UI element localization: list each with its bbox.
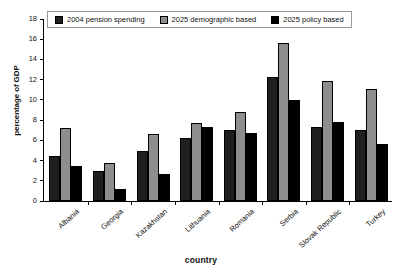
- bar: [202, 127, 213, 201]
- x-axis-label-text: Turkey: [364, 207, 387, 229]
- bar-group: [219, 20, 263, 201]
- bar: [180, 138, 191, 201]
- bar-group: [131, 20, 175, 201]
- y-tick-label: 4: [33, 156, 37, 165]
- bar: [267, 77, 278, 201]
- x-axis-label-text: Kazakhstan: [134, 207, 169, 240]
- x-tick-mark: [131, 201, 132, 205]
- bar: [71, 166, 82, 201]
- y-tick-label: 18: [29, 14, 37, 23]
- bar: [60, 128, 71, 201]
- bar: [333, 122, 344, 201]
- x-axis-title: country: [0, 255, 402, 265]
- bar-chart: percentage of GDP 2004 pension spending2…: [0, 0, 402, 276]
- bar: [191, 123, 202, 201]
- bar-group: [44, 20, 88, 201]
- x-tick-mark: [262, 201, 263, 205]
- bar: [224, 130, 235, 201]
- bar: [311, 127, 322, 201]
- bar: [159, 174, 170, 201]
- bar: [93, 171, 104, 201]
- bar: [377, 144, 388, 201]
- x-tick-mark: [349, 201, 350, 205]
- x-axis-label-text: Serbia: [277, 207, 299, 228]
- bar: [322, 81, 333, 201]
- bar-group: [88, 20, 132, 201]
- y-tick-label: 14: [29, 54, 37, 63]
- y-tick-label: 2: [33, 176, 37, 185]
- x-axis-label-text: Romania: [228, 207, 256, 234]
- x-axis-label-text: Lithuania: [184, 207, 213, 234]
- bar: [366, 89, 377, 201]
- bar: [235, 112, 246, 201]
- bar-group: [175, 20, 219, 201]
- y-tick-label: 12: [29, 75, 37, 84]
- bar: [137, 151, 148, 201]
- y-tick-label: 10: [29, 95, 37, 104]
- x-tick-mark: [306, 201, 307, 205]
- y-tick-label: 0: [33, 196, 37, 205]
- y-tick-label: 8: [33, 115, 37, 124]
- bar: [148, 134, 159, 201]
- bar: [49, 156, 60, 202]
- bar-group: [262, 20, 306, 201]
- bar: [355, 130, 366, 201]
- bar: [289, 100, 300, 201]
- bar: [246, 133, 257, 201]
- x-tick-mark: [88, 201, 89, 205]
- x-tick-mark: [219, 201, 220, 205]
- y-axis-title: percentage of GDP: [12, 41, 21, 161]
- bar: [104, 163, 115, 201]
- bar: [278, 43, 289, 201]
- x-axis-label-text: Slovak Republic: [297, 207, 343, 250]
- bar: [115, 189, 126, 201]
- x-axis-label-text: Albania: [57, 207, 82, 230]
- y-tick-label: 6: [33, 135, 37, 144]
- bar-group: [349, 20, 393, 201]
- bar-group: [306, 20, 350, 201]
- y-tick-label: 16: [29, 34, 37, 43]
- plot-area: 024681012141618AlbaniaGeorgiaKazakhstanL…: [43, 20, 392, 202]
- x-axis-label-text: Georgia: [99, 207, 125, 232]
- x-tick-mark: [175, 201, 176, 205]
